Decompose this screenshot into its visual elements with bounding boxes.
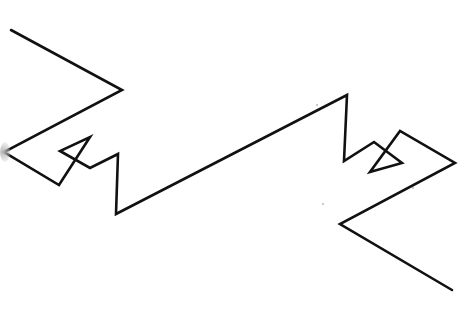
zigzag-line-drawing — [0, 0, 474, 330]
drawing-canvas — [0, 0, 474, 330]
speck — [412, 187, 414, 189]
speck — [322, 203, 324, 205]
speck — [316, 104, 318, 106]
smudge-mark — [0, 142, 10, 162]
